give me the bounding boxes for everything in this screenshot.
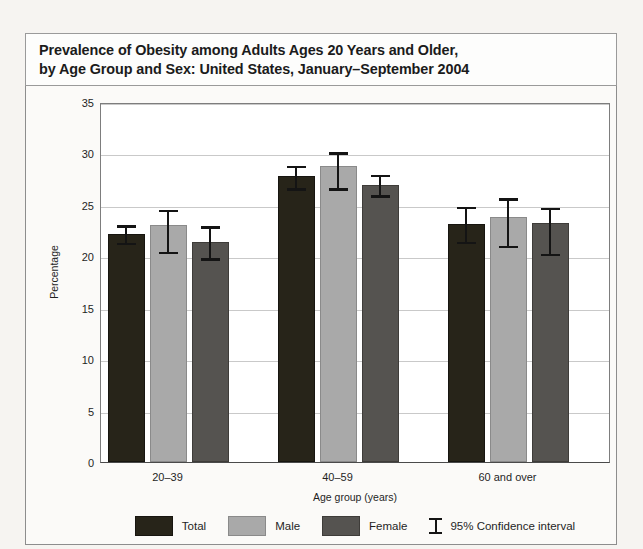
y-axis-tick-label: 10 bbox=[54, 354, 94, 366]
gridline bbox=[101, 104, 609, 105]
error-bar-male-2 bbox=[507, 200, 509, 247]
error-cap-lower-male-0 bbox=[159, 252, 178, 254]
error-bar-total-1 bbox=[295, 167, 297, 190]
legend-swatch-male bbox=[228, 516, 266, 536]
chart-title-line-2: by Age Group and Sex: United States, Jan… bbox=[39, 60, 616, 79]
legend-item-male[interactable]: Male bbox=[228, 516, 300, 536]
error-cap-lower-female-0 bbox=[201, 258, 220, 260]
error-cap-lower-total-1 bbox=[287, 188, 306, 190]
error-bar-male-0 bbox=[167, 211, 169, 253]
error-cap-lower-male-1 bbox=[329, 188, 348, 190]
chart-title-box: Prevalence of Obesity among Adults Ages … bbox=[25, 33, 617, 86]
legend-item-female[interactable]: Female bbox=[322, 516, 407, 536]
legend-item-total[interactable]: Total bbox=[135, 516, 206, 536]
error-cap-upper-male-1 bbox=[329, 152, 348, 154]
x-axis-tick-label: 60 and over bbox=[428, 471, 588, 483]
bar-female-2 bbox=[532, 223, 569, 462]
error-cap-lower-total-0 bbox=[117, 243, 136, 245]
plot-area bbox=[100, 103, 610, 463]
bar-male-2 bbox=[490, 217, 527, 462]
error-cap-upper-total-2 bbox=[457, 207, 476, 209]
bar-male-1 bbox=[320, 166, 357, 462]
error-bar-female-0 bbox=[209, 227, 211, 259]
legend-label-female: Female bbox=[369, 520, 407, 532]
chart-legend: TotalMaleFemale95% Confidence interval bbox=[100, 514, 610, 538]
bar-total-1 bbox=[278, 176, 315, 462]
legend-item-confidence-interval: 95% Confidence interval bbox=[429, 516, 575, 536]
bar-female-1 bbox=[362, 185, 399, 462]
x-axis-tick-label: 20–39 bbox=[88, 471, 248, 483]
bar-total-2 bbox=[448, 224, 485, 462]
error-cap-upper-total-1 bbox=[287, 166, 306, 168]
y-axis-tick-label: 30 bbox=[54, 148, 94, 160]
bar-female-0 bbox=[192, 242, 229, 462]
error-cap-lower-total-2 bbox=[457, 242, 476, 244]
x-axis-title: Age group (years) bbox=[100, 491, 610, 503]
bar-male-0 bbox=[150, 225, 187, 462]
chart-page: Prevalence of Obesity among Adults Ages … bbox=[0, 0, 643, 549]
y-axis-tick-labels: 05101520253035 bbox=[50, 103, 94, 463]
y-axis-tick-label: 5 bbox=[54, 406, 94, 418]
error-bar-male-1 bbox=[337, 153, 339, 189]
legend-swatch-female bbox=[322, 516, 360, 536]
error-cap-upper-male-0 bbox=[159, 210, 178, 212]
error-cap-lower-female-1 bbox=[371, 195, 390, 197]
legend-swatch-total bbox=[135, 516, 173, 536]
error-bar-total-2 bbox=[465, 208, 467, 243]
error-cap-lower-male-2 bbox=[499, 246, 518, 248]
error-cap-lower-female-2 bbox=[541, 254, 560, 256]
error-cap-upper-female-0 bbox=[201, 226, 220, 228]
bar-total-0 bbox=[108, 234, 145, 462]
error-bar-female-2 bbox=[549, 209, 551, 255]
error-cap-upper-total-0 bbox=[117, 225, 136, 227]
y-axis-tick-label: 0 bbox=[54, 457, 94, 469]
error-cap-upper-female-1 bbox=[371, 175, 390, 177]
error-cap-upper-female-2 bbox=[541, 208, 560, 210]
chart-title-line-1: Prevalence of Obesity among Adults Ages … bbox=[39, 41, 616, 60]
legend-label-confidence-interval: 95% Confidence interval bbox=[450, 520, 575, 532]
error-bar-female-1 bbox=[379, 176, 381, 197]
y-axis-tick-label: 15 bbox=[54, 303, 94, 315]
error-bar-total-0 bbox=[125, 226, 127, 243]
error-bar-icon bbox=[429, 516, 442, 536]
legend-label-total: Total bbox=[182, 520, 206, 532]
gridline bbox=[101, 155, 609, 156]
y-axis-tick-label: 35 bbox=[54, 97, 94, 109]
legend-label-male: Male bbox=[275, 520, 300, 532]
error-cap-upper-male-2 bbox=[499, 198, 518, 200]
y-axis-tick-label: 25 bbox=[54, 200, 94, 212]
y-axis-tick-label: 20 bbox=[54, 251, 94, 263]
x-axis-tick-label: 40–59 bbox=[258, 471, 418, 483]
